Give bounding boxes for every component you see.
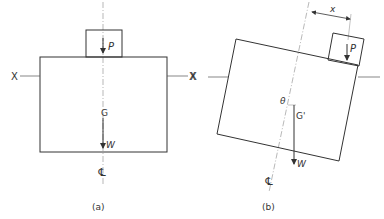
weight-label-a: W — [106, 140, 116, 150]
centerline-symbol-b: ℄ — [264, 175, 274, 188]
cg-label-b: G' — [296, 111, 305, 121]
load-block-a — [86, 30, 122, 57]
weight-label-b: W — [297, 159, 307, 169]
offset-label-b: x — [329, 4, 336, 14]
diagram-b: X x P θ G' W ℄ (b) — [190, 2, 380, 212]
diagram-a: X X P G W ℄ (a) — [11, 2, 196, 212]
cg-label-a: G — [101, 108, 108, 118]
axis-label-left-b: X — [190, 71, 197, 82]
caption-a: (a) — [92, 202, 105, 212]
axis-label-left-a: X — [11, 71, 18, 82]
body-rect-b — [217, 39, 358, 161]
centerline-symbol-a: ℄ — [97, 166, 107, 179]
load-block-b — [328, 33, 364, 66]
load-label-b: P — [350, 43, 357, 54]
load-label-a: P — [108, 41, 115, 52]
angle-label-b: θ — [280, 96, 286, 106]
stability-diagram: X X P G W ℄ (a) X x P θ G' W ℄ (b) — [0, 0, 384, 219]
caption-b: (b) — [262, 202, 275, 212]
